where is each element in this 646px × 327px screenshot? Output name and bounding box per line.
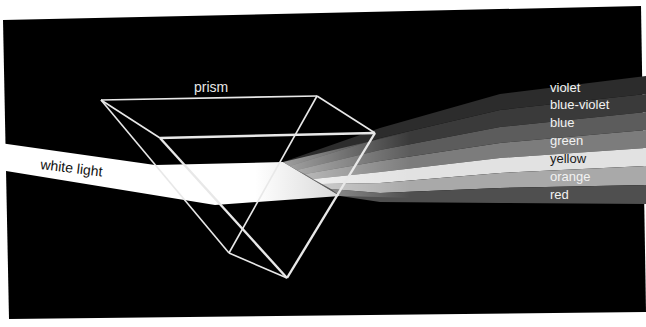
label-blue-violet: blue-violet	[550, 97, 610, 112]
label-red: red	[550, 187, 569, 202]
label-yellow: yellow	[550, 151, 587, 166]
prism-diagram: prism white light violet blue-violet blu…	[0, 0, 646, 327]
prism-label: prism	[194, 79, 228, 95]
label-green: green	[550, 133, 583, 148]
label-orange: orange	[550, 169, 590, 184]
label-blue: blue	[550, 115, 575, 130]
label-violet: violet	[550, 80, 581, 95]
